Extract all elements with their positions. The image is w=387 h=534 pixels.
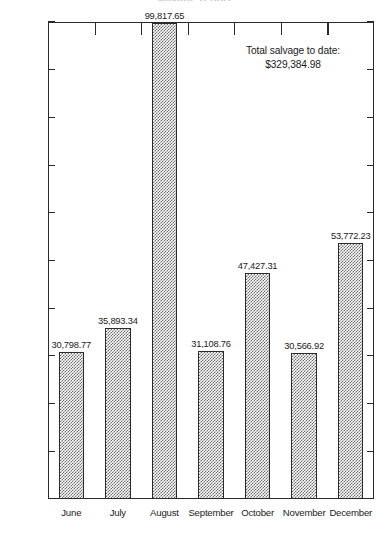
bar-value-label-december: 53,772.23 — [316, 231, 386, 241]
bar-july[interactable] — [105, 328, 130, 499]
y-tick-mark — [48, 21, 55, 22]
total-salvage-annotation: Total salvage to date: $329,384.98 — [218, 44, 368, 71]
salvage-bar-chart: salvage report 100,00090,00080,00070,000… — [0, 0, 387, 534]
x-top-tick-mark — [327, 22, 328, 29]
y-tick-mark — [48, 355, 55, 356]
bar-october[interactable] — [245, 273, 270, 499]
bar-value-label-november: 30,566.92 — [269, 341, 339, 351]
bar-june[interactable] — [59, 352, 84, 499]
y-right-tick-mark — [367, 21, 374, 22]
x-tick-mark — [234, 28, 235, 35]
y-tick-mark — [48, 212, 55, 213]
x-tick-mark — [281, 28, 282, 35]
y-tick-mark — [48, 451, 55, 452]
clipped-chart-title: salvage report — [0, 0, 387, 1]
x-tick-mark — [327, 28, 328, 35]
y-tick-mark — [48, 260, 55, 261]
y-right-tick-mark — [367, 165, 374, 166]
y-right-tick-mark — [367, 212, 374, 213]
y-tick-mark — [48, 403, 55, 404]
bar-value-label-october: 47,427.31 — [223, 261, 293, 271]
x-top-tick-mark — [234, 22, 235, 29]
y-right-tick-mark — [367, 403, 374, 404]
bar-november[interactable] — [291, 353, 316, 499]
y-tick-mark — [48, 165, 55, 166]
x-top-tick-mark — [188, 22, 189, 29]
x-top-tick-mark — [95, 22, 96, 29]
bar-september[interactable] — [198, 351, 223, 499]
y-tick-mark — [48, 69, 55, 70]
bar-august[interactable] — [152, 23, 177, 499]
bar-december[interactable] — [338, 243, 363, 499]
x-tick-mark — [95, 28, 96, 35]
x-top-tick-mark — [141, 22, 142, 29]
annotation-line-1: Total salvage to date: — [218, 44, 368, 58]
x-top-tick-mark — [281, 22, 282, 29]
y-right-tick-mark — [367, 260, 374, 261]
y-right-tick-mark — [367, 117, 374, 118]
y-right-tick-mark — [367, 308, 374, 309]
x-axis-label-december: December — [318, 507, 383, 518]
bar-value-label-june: 30,798.77 — [36, 340, 106, 350]
y-right-tick-mark — [367, 69, 374, 70]
y-right-tick-mark — [367, 355, 374, 356]
bar-value-label-september: 31,108.76 — [176, 339, 246, 349]
bar-value-label-july: 35,893.34 — [83, 316, 153, 326]
y-tick-mark — [48, 308, 55, 309]
annotation-line-2: $329,384.98 — [218, 58, 368, 72]
y-tick-mark — [48, 117, 55, 118]
x-tick-mark — [188, 28, 189, 35]
x-tick-mark — [141, 28, 142, 35]
y-right-tick-mark — [367, 451, 374, 452]
bar-value-label-august: 99,817.65 — [129, 11, 199, 21]
